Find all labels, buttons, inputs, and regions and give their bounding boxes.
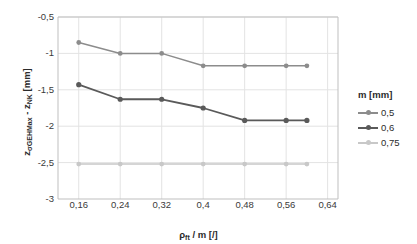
x-axis-label-text: ρft / m [/] — [179, 229, 218, 240]
legend-item: 0,5 — [358, 105, 416, 120]
x-tick-label: 0,32 — [152, 199, 171, 210]
data-point — [159, 162, 164, 167]
data-point — [118, 97, 123, 102]
data-point — [201, 162, 206, 167]
series-line — [79, 42, 307, 65]
x-tick-label: 0,56 — [277, 199, 296, 210]
legend-marker-dot — [366, 125, 371, 130]
x-tick-label: 0,24 — [111, 199, 130, 210]
data-point — [284, 63, 289, 68]
legend-item: 0,6 — [358, 120, 416, 135]
line-chart: zσGEHMax - zNK [mm] -0,5-1-1,5-2-2,5-3 0… — [0, 0, 417, 244]
legend-item: 0,75 — [358, 135, 416, 150]
data-point — [304, 63, 309, 68]
legend-swatch — [358, 138, 378, 148]
x-tick-label: 0,16 — [69, 199, 88, 210]
series-0-6 — [76, 82, 309, 123]
x-tick-label: 0,48 — [235, 199, 254, 210]
data-point — [76, 82, 81, 87]
y-tick-label: -1,5 — [38, 85, 54, 95]
legend-label: 0,6 — [381, 122, 394, 133]
data-point — [159, 51, 164, 56]
legend-label: 0,75 — [381, 137, 400, 148]
legend-marker-dot — [366, 110, 371, 115]
series-0-5 — [76, 40, 309, 68]
legend-marker-dot — [366, 140, 371, 145]
legend: m [mm] 0,50,60,75 — [358, 89, 416, 150]
data-point — [242, 63, 247, 68]
data-point — [201, 105, 206, 110]
x-tick-label: 0,64 — [318, 199, 337, 210]
data-point — [76, 162, 81, 167]
data-point — [76, 40, 81, 45]
data-point — [304, 118, 309, 123]
y-tick-label: -1 — [46, 48, 54, 58]
data-point — [242, 118, 247, 123]
data-point — [284, 162, 289, 167]
legend-label: 0,5 — [381, 107, 394, 118]
legend-title: m [mm] — [358, 89, 416, 100]
x-axis-label: ρft / m [/] — [58, 224, 339, 242]
data-point — [284, 118, 289, 123]
legend-swatch — [358, 123, 378, 133]
legend-swatch — [358, 108, 378, 118]
y-tick-label: -0,5 — [38, 12, 54, 22]
data-point — [304, 162, 309, 167]
data-point — [159, 97, 164, 102]
data-point — [242, 162, 247, 167]
data-point — [201, 63, 206, 68]
legend-items: 0,50,60,75 — [358, 105, 416, 150]
x-tick-label: 0,4 — [197, 199, 210, 210]
data-point — [118, 162, 123, 167]
data-point — [118, 51, 123, 56]
y-tick-label: -2 — [46, 121, 54, 131]
x-axis-ticks: 0,160,240,320,40,480,560,64 — [0, 199, 417, 213]
y-tick-label: -2,5 — [38, 158, 54, 168]
